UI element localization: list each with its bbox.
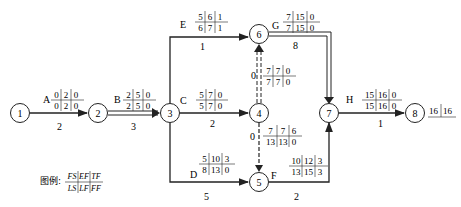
time-table-E: 566711 xyxy=(195,11,228,33)
svg-text:8: 8 xyxy=(413,108,418,119)
time-table-A: 002200 xyxy=(51,89,84,111)
time-table-C: 557700 xyxy=(196,89,228,111)
svg-text:12: 12 xyxy=(304,156,313,166)
svg-text:7: 7 xyxy=(327,108,332,119)
svg-text:16: 16 xyxy=(443,106,453,116)
svg-text:0: 0 xyxy=(286,77,291,87)
svg-text:7: 7 xyxy=(266,77,271,87)
svg-text:16: 16 xyxy=(378,90,388,100)
svg-text:FS: FS xyxy=(67,172,77,181)
activity-label-G: G xyxy=(272,20,279,31)
svg-text:0: 0 xyxy=(54,90,59,100)
svg-text:0: 0 xyxy=(54,101,59,111)
node-6: 6 xyxy=(250,25,269,44)
svg-text:6: 6 xyxy=(292,126,297,136)
node-1: 1 xyxy=(11,104,30,123)
svg-text:0: 0 xyxy=(392,101,397,111)
svg-text:15: 15 xyxy=(304,167,314,177)
svg-text:0: 0 xyxy=(74,101,79,111)
node-2: 2 xyxy=(89,104,108,123)
svg-text:0: 0 xyxy=(286,66,291,76)
svg-text:4: 4 xyxy=(257,108,262,119)
svg-text:5: 5 xyxy=(198,12,203,22)
node-8: 8 xyxy=(406,104,425,123)
time-table-dummy-4-5: 71371360 xyxy=(263,125,302,147)
svg-text:10: 10 xyxy=(292,156,302,166)
svg-text:7: 7 xyxy=(208,101,213,111)
duration-F: 2 xyxy=(294,191,299,202)
node-7: 7 xyxy=(320,104,339,123)
svg-text:7: 7 xyxy=(268,126,273,136)
svg-text:16: 16 xyxy=(429,106,439,116)
duration-dummy-4-6: 0 xyxy=(251,70,256,81)
svg-text:15: 15 xyxy=(365,90,375,100)
svg-text:7: 7 xyxy=(276,66,281,76)
svg-text:6: 6 xyxy=(198,23,203,33)
svg-text:0: 0 xyxy=(218,101,223,111)
duration-A: 2 xyxy=(57,121,62,132)
svg-text:0: 0 xyxy=(74,90,79,100)
svg-text:0: 0 xyxy=(146,101,151,111)
activity-label-E: E xyxy=(180,19,186,30)
svg-text:7: 7 xyxy=(276,77,281,87)
svg-text:0: 0 xyxy=(292,137,297,147)
svg-text:1: 1 xyxy=(18,108,23,119)
svg-text:3: 3 xyxy=(318,156,323,166)
svg-text:10: 10 xyxy=(211,154,221,164)
activity-label-D: D xyxy=(190,169,197,180)
svg-text:16: 16 xyxy=(378,101,388,111)
svg-text:3: 3 xyxy=(168,108,173,119)
time-table-D: 58101330 xyxy=(199,153,235,175)
svg-text:5: 5 xyxy=(257,177,262,188)
network-diagram: 12345678 A0022002B2255003C5577002E566711… xyxy=(0,0,461,207)
svg-text:5: 5 xyxy=(199,90,204,100)
svg-text:FF: FF xyxy=(90,184,101,193)
svg-text:5: 5 xyxy=(136,101,141,111)
svg-text:7: 7 xyxy=(208,23,213,33)
duration-dummy-4-5: 0 xyxy=(250,131,255,142)
svg-text:0: 0 xyxy=(218,90,223,100)
activity-label-A: A xyxy=(43,94,51,105)
svg-text:15: 15 xyxy=(365,101,375,111)
svg-text:0: 0 xyxy=(146,90,151,100)
time-table-F: 1013121533 xyxy=(289,155,328,177)
svg-text:1: 1 xyxy=(218,23,223,33)
duration-D: 5 xyxy=(204,191,209,202)
svg-text:7: 7 xyxy=(286,12,291,22)
svg-text:7: 7 xyxy=(281,126,286,136)
duration-G: 8 xyxy=(293,40,298,51)
svg-text:5: 5 xyxy=(136,90,141,100)
svg-text:0: 0 xyxy=(310,23,315,33)
node-5: 5 xyxy=(250,173,269,192)
dummy-4-5 xyxy=(255,123,263,172)
legend-label: 图例: xyxy=(40,175,61,186)
svg-text:EF: EF xyxy=(78,172,89,181)
duration-B: 3 xyxy=(131,121,136,132)
svg-text:8: 8 xyxy=(202,165,207,175)
svg-text:2: 2 xyxy=(64,90,69,100)
end-node-values: 1616 xyxy=(428,104,456,117)
activity-label-C: C xyxy=(180,95,187,106)
svg-text:15: 15 xyxy=(296,23,306,33)
svg-text:7: 7 xyxy=(286,23,291,33)
activity-label-B: B xyxy=(114,94,121,105)
node-3: 3 xyxy=(161,104,180,123)
svg-text:5: 5 xyxy=(202,154,207,164)
svg-text:2: 2 xyxy=(126,90,131,100)
time-table-H: 1515161600 xyxy=(362,89,402,111)
activity-label-H: H xyxy=(346,94,353,105)
activity-B xyxy=(108,108,160,118)
node-4: 4 xyxy=(250,104,269,123)
duration-H: 1 xyxy=(378,118,383,129)
svg-text:6: 6 xyxy=(208,12,213,22)
svg-text:7: 7 xyxy=(208,90,213,100)
svg-text:13: 13 xyxy=(266,137,276,147)
svg-text:2: 2 xyxy=(126,101,131,111)
svg-text:LF: LF xyxy=(78,184,88,193)
activity-label-F: F xyxy=(271,170,277,181)
svg-text:0: 0 xyxy=(310,12,315,22)
svg-text:3: 3 xyxy=(225,154,230,164)
svg-text:1: 1 xyxy=(218,12,223,22)
duration-C: 2 xyxy=(210,118,215,129)
svg-text:2: 2 xyxy=(64,101,69,111)
